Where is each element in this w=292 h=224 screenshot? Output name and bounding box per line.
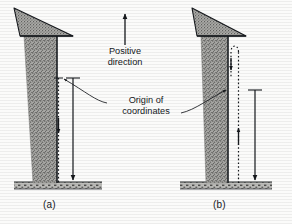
panel-a [14, 8, 107, 189]
panel-a-origin-leader [64, 79, 107, 103]
panel-a-solid-axis [66, 78, 80, 180]
panel-b-tree-trunk [201, 36, 228, 183]
panel-b [180, 8, 272, 189]
origin-of-coordinates-label: Origin of coordinates [109, 95, 183, 116]
panel-b-solid-axis [248, 90, 262, 180]
panel-a-caption: (a) [43, 199, 56, 210]
panel-b-dashed-axis [231, 46, 239, 183]
panel-b-tree-canopy [192, 8, 246, 36]
positive-direction-label: Positive direction [97, 46, 153, 67]
panel-b-caption: (b) [213, 199, 226, 210]
panel-a-tree-trunk [24, 36, 57, 183]
panel-a-ground [14, 182, 102, 189]
panel-a-tree-canopy [14, 8, 73, 36]
figure-root: Positive direction Origin of coordinates… [0, 0, 292, 224]
